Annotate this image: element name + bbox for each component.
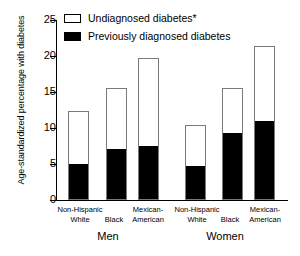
bar-2: [138, 58, 159, 200]
y-tick-mark-10: [50, 128, 56, 129]
category-label-0-line1: Non-Hispanic: [40, 205, 120, 214]
bar-1: [106, 88, 127, 200]
bar-segment-previously-diagnosed-0: [69, 164, 88, 199]
y-tick-mark-20: [50, 56, 56, 57]
legend-swatch-filled-icon: [64, 32, 81, 41]
y-tick-label-0: 0: [8, 194, 56, 205]
y-tick-0: 0: [0, 200, 56, 201]
bar-segment-previously-diagnosed-1: [107, 149, 126, 199]
group-label-men: Men: [78, 230, 138, 242]
legend-item-undiagnosed: Undiagnosed diabetes*: [64, 10, 230, 26]
diabetes-prevalence-chart: Age-standardized percentage with diabete…: [0, 0, 300, 256]
y-axis-title: Age-standardized percentage with diabete…: [14, 0, 28, 200]
legend: Undiagnosed diabetes* Previously diagnos…: [64, 10, 230, 46]
y-tick-label-5: 5: [8, 158, 56, 169]
bar-segment-previously-diagnosed-5: [255, 121, 274, 199]
y-axis-line: [56, 20, 57, 201]
y-tick-15: 15: [0, 92, 56, 93]
group-label-women: Women: [190, 230, 260, 242]
y-tick-label-25: 25: [8, 14, 56, 25]
bar-4: [222, 88, 243, 200]
legend-item-previously-diagnosed: Previously diagnosed diabetes: [64, 28, 230, 44]
y-tick-label-10: 10: [8, 122, 56, 133]
y-tick-25: 25: [0, 20, 56, 21]
x-axis-line: [56, 200, 288, 201]
bar-5: [254, 46, 275, 200]
y-tick-10: 10: [0, 128, 56, 129]
category-label-5-line1: Mexican-: [234, 205, 296, 214]
category-label-3-line1: Non-Hispanic: [157, 205, 237, 214]
bar-segment-previously-diagnosed-3: [186, 166, 205, 199]
legend-label-previously-diagnosed: Previously diagnosed diabetes: [88, 31, 230, 42]
legend-label-undiagnosed: Undiagnosed diabetes*: [88, 13, 197, 24]
y-tick-label-20: 20: [8, 50, 56, 61]
y-tick-mark-25: [50, 20, 56, 21]
bar-0: [68, 111, 89, 200]
legend-swatch-open-icon: [64, 14, 81, 23]
category-label-5-line2: American: [234, 215, 296, 224]
y-tick-mark-0: [50, 200, 56, 201]
y-tick-5: 5: [0, 164, 56, 165]
y-tick-mark-15: [50, 92, 56, 93]
bar-3: [185, 125, 206, 200]
y-tick-label-15: 15: [8, 86, 56, 97]
y-tick-mark-5: [50, 164, 56, 165]
bar-segment-previously-diagnosed-2: [139, 146, 158, 199]
bar-segment-previously-diagnosed-4: [223, 133, 242, 199]
y-tick-20: 20: [0, 56, 56, 57]
